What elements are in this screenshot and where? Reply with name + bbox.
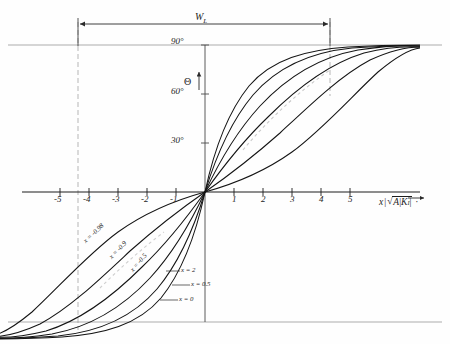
x-tick-label-1: 1	[232, 194, 237, 204]
x-tick-label-2: 2	[261, 194, 266, 204]
curve-x-neg0-9	[205, 46, 420, 192]
x-axis-label-trailing: ·	[415, 197, 418, 207]
curve-label-x-0-5: x = 0.5	[191, 280, 211, 287]
axes	[22, 45, 424, 322]
curve-x-2	[205, 48, 420, 192]
y-tick-label-90: 90°	[171, 36, 184, 46]
asymptote-lines	[8, 45, 442, 322]
curve-family	[205, 45, 420, 192]
x-tick-label-5: 5	[348, 194, 353, 204]
figure-canvas: WL Θ 90° 60° 30° -5 -4 -3 -2 -1 1 2 3 4 …	[0, 0, 450, 344]
width-annotation-subscript: L	[203, 17, 207, 25]
curve-x-neg0-98	[205, 45, 420, 192]
x-axis-label-bar2: |	[409, 197, 411, 207]
y-tick-label-60: 60°	[171, 86, 184, 96]
x-tick-label--3: -3	[112, 194, 120, 204]
x-tick-label--4: -4	[83, 194, 91, 204]
x-axis-label-variable: x	[379, 197, 383, 207]
curve-x-0	[205, 47, 420, 192]
x-tick-label-4: 4	[319, 194, 324, 204]
x-axis-label-divider: |	[384, 197, 386, 207]
y-axis-symbol: Θ	[184, 76, 191, 87]
y-tick-label-30: 30°	[171, 135, 184, 145]
x-axis-label: x | √ A | K I | ·	[379, 196, 418, 207]
chart-svg	[0, 0, 450, 344]
x-tick-label--1: -1	[170, 194, 178, 204]
x-tick-label-3: 3	[290, 194, 295, 204]
curve-label-x-0: x = 0	[179, 295, 193, 302]
x-tick-label--2: -2	[141, 194, 149, 204]
width-annotation-label: WL	[195, 11, 207, 25]
x-tick-label--5: -5	[54, 194, 62, 204]
curve-x-0-5	[205, 47, 420, 192]
curve-family-lower	[0, 192, 205, 339]
curve-x-neg0-5	[205, 46, 420, 192]
curve-label-x-2: x = 2	[181, 266, 195, 273]
